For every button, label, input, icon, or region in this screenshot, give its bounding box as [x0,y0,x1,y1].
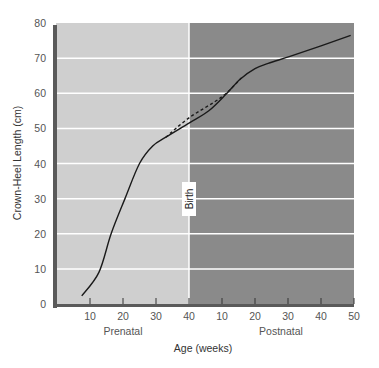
y-tick-label: 70 [34,52,46,64]
y-tick-label: 30 [34,193,46,205]
growth-chart: 01020304050607080 102030401020304050 Bir… [0,0,379,368]
y-axis-bar [53,25,57,308]
birth-annotation: Birth [182,182,196,216]
y-tick-label: 0 [40,298,46,310]
x-axis-title: Age (weeks) [174,342,232,354]
y-tick-label: 10 [34,263,46,275]
y-tick-labels: 01020304050607080 [34,17,46,310]
postnatal-label: Postnatal [259,325,303,337]
x-tick-label: 20 [117,310,129,322]
y-tick-label: 60 [34,87,46,99]
x-tick-label: 30 [150,310,162,322]
x-tick-label: 20 [249,310,261,322]
y-axis-title: Crown-Heel Length (cm) [11,106,23,220]
x-tick-label: 50 [348,310,360,322]
y-tick-label: 80 [34,17,46,29]
birth-label: Birth [184,189,195,210]
x-tick-label: 40 [183,310,195,322]
x-tick-label: 10 [84,310,96,322]
x-tick-label: 30 [282,310,294,322]
y-tick-label: 20 [34,228,46,240]
x-tick-label: 40 [315,310,327,322]
y-tick-label: 40 [34,158,46,170]
x-axis-bar [53,304,354,307]
x-tick-label: 10 [216,310,228,322]
y-tick-label: 50 [34,122,46,134]
x-tick-labels: 102030401020304050 [84,310,360,322]
prenatal-label: Prenatal [103,325,142,337]
